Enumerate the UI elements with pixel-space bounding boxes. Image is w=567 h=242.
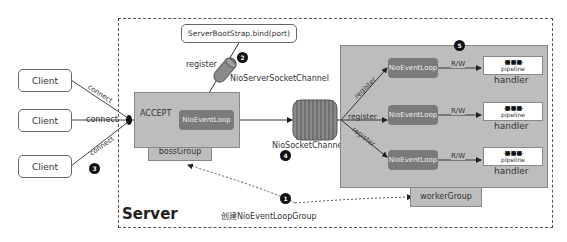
step-badge-1: 1 bbox=[280, 193, 291, 204]
create-group-label: 创建NioEventLoopGroup bbox=[221, 210, 317, 221]
pipeline-icon: -■-■-■- bbox=[484, 149, 542, 156]
worker-event-loop: NioEventLoop bbox=[388, 105, 438, 125]
rw-label: R/W bbox=[451, 152, 465, 160]
pipeline-icon: -■-■-■- bbox=[484, 104, 542, 111]
worker-arrows bbox=[0, 0, 567, 242]
rw-label: R/W bbox=[451, 107, 465, 115]
pipeline-label: pipeline bbox=[484, 65, 542, 72]
rw-label: R/W bbox=[451, 60, 465, 68]
pipeline-label: pipeline bbox=[484, 111, 542, 118]
event-loop-label: NioEventLoop bbox=[389, 156, 437, 164]
pipeline-label: pipeline bbox=[484, 156, 542, 163]
pipeline-box: -■-■-■- pipeline bbox=[483, 102, 543, 121]
event-loop-label: NioEventLoop bbox=[389, 111, 437, 119]
event-loop-label: NioEventLoop bbox=[389, 64, 437, 72]
pipeline-box: -■-■-■- pipeline bbox=[483, 56, 543, 75]
pipeline-box: -■-■-■- pipeline bbox=[483, 147, 543, 166]
pipeline-icon: -■-■-■- bbox=[484, 58, 542, 65]
worker-event-loop: NioEventLoop bbox=[388, 58, 438, 78]
handler-label: handler bbox=[494, 75, 528, 85]
handler-label: handler bbox=[494, 166, 528, 176]
worker-event-loop: NioEventLoop bbox=[388, 150, 438, 170]
register-label: register bbox=[348, 112, 377, 121]
handler-label: handler bbox=[494, 121, 528, 131]
